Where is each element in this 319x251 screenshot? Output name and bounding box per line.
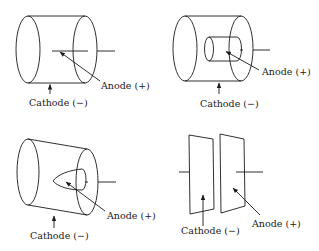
cathode-label: Cathode (−)	[30, 230, 89, 241]
anode-arrow	[60, 52, 100, 81]
cylinder-top-edge	[28, 139, 87, 149]
cylinder-bottom-edge	[28, 205, 87, 215]
anode-label: Anode (+)	[106, 210, 156, 221]
anode-cone-base	[82, 169, 86, 190]
anode-arrow	[233, 188, 260, 215]
anode-cylinder-right-end	[237, 37, 242, 61]
cathode-cylinder-right-end	[73, 16, 97, 83]
electrode-diagram: Anode (+) Cathode (−) Anode (+) Cathode …	[0, 0, 319, 251]
anode-cone	[53, 169, 82, 190]
anode-label: Anode (+)	[251, 218, 301, 229]
cathode-plate	[189, 135, 214, 214]
cathode-cylinder-right-end	[229, 16, 253, 81]
panel-coaxial-cylinder: Anode (+) Cathode (−)	[173, 16, 311, 109]
panel-parallel-plates: Cathode (−) Anode (+)	[179, 134, 301, 236]
cathode-cylinder-left-end	[17, 139, 39, 205]
anode-cylinder-left-end	[205, 37, 214, 61]
cathode-label: Cathode (−)	[181, 225, 240, 236]
panel-coaxial-cone: Anode (+) Cathode (−)	[17, 139, 156, 241]
panel-coaxial-wire: Anode (+) Cathode (−)	[16, 16, 150, 108]
anode-label: Anode (+)	[100, 80, 150, 91]
cathode-cylinder-left-end	[173, 16, 197, 81]
cathode-label: Cathode (−)	[29, 97, 88, 108]
anode-plate	[220, 134, 245, 213]
cathode-cylinder-left-end	[16, 16, 40, 83]
cathode-label: Cathode (−)	[200, 98, 259, 109]
anode-label: Anode (+)	[261, 66, 311, 77]
